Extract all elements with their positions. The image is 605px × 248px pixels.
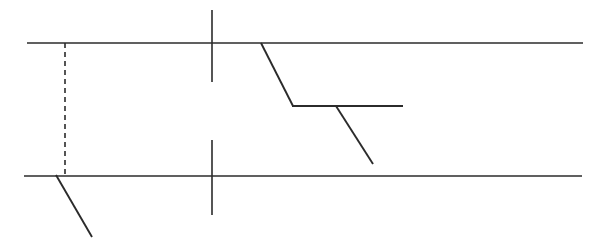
diagram-root [0, 0, 605, 248]
canvas-background [0, 0, 605, 248]
diagram-canvas [0, 0, 605, 248]
